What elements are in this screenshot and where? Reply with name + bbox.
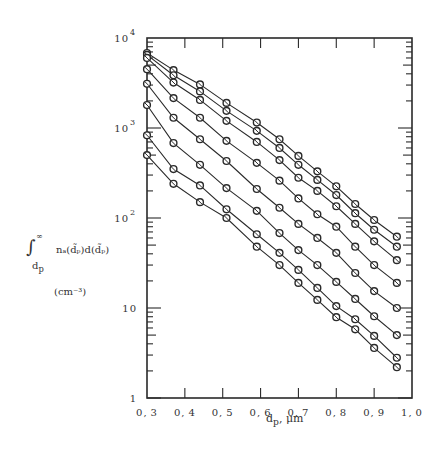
x-title-d: d — [266, 412, 273, 425]
series-curve — [144, 152, 401, 371]
data-series — [144, 50, 401, 371]
integral-lower-limit: dp — [32, 260, 44, 274]
x-tick-label: 1, 0 — [401, 407, 423, 418]
series-curve — [144, 80, 401, 311]
lower-limit-sub: p — [38, 264, 43, 274]
x-tick-label: 0, 3 — [136, 407, 158, 418]
x-tick-label: 0, 5 — [212, 407, 234, 418]
integral-symbol: ∫ — [26, 236, 35, 257]
x-tick-label: 0, 4 — [174, 407, 196, 418]
y-tick-exponent: 2 — [130, 208, 136, 217]
y-tick-label: 10 — [114, 123, 129, 134]
series-curve — [144, 50, 401, 240]
x-title-unit: , μm — [279, 412, 304, 425]
series-curve — [144, 55, 401, 264]
y-tick-label: 10 — [114, 33, 129, 44]
y-tick-label: 1 — [130, 393, 137, 404]
x-tick-label: 0, 8 — [325, 407, 347, 418]
y-tick-label: 10 — [122, 303, 137, 314]
y-axis-unit: (cm⁻³) — [54, 286, 86, 297]
x-axis-title: dp, μm — [266, 412, 304, 427]
chart-plot: 110102103104 0, 30, 40, 50, 60, 70, 80, … — [0, 0, 441, 457]
y-tick-exponent: 4 — [130, 28, 136, 37]
x-tick-label: 0, 9 — [363, 407, 385, 418]
y-tick-label: 10 — [114, 213, 129, 224]
integral-upper-limit: ∞ — [36, 232, 43, 241]
x-axis-ticks: 0, 30, 40, 50, 60, 70, 80, 91, 0 — [136, 38, 423, 418]
series-curve — [144, 102, 401, 339]
series-curve — [144, 132, 401, 361]
y-tick-exponent: 3 — [130, 118, 136, 127]
series-curve — [144, 66, 401, 287]
y-axis-ticks: 110102103104 — [114, 28, 412, 404]
integrand-expression: nₐ(d̃ₚ)d(d̃ₚ) — [56, 244, 109, 255]
